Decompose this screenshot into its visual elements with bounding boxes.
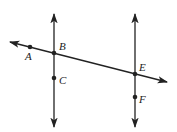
point-b-label: B bbox=[59, 40, 66, 52]
point-c-label: C bbox=[59, 74, 67, 86]
geometry-diagram: ABCEF bbox=[0, 0, 177, 132]
point-e-label: E bbox=[138, 61, 146, 73]
point-e-dot bbox=[133, 72, 138, 77]
point-a-label: A bbox=[24, 50, 32, 62]
point-a-dot bbox=[28, 45, 33, 50]
points-layer bbox=[28, 45, 138, 100]
point-b-dot bbox=[52, 51, 57, 56]
point-f-dot bbox=[133, 95, 138, 100]
point-f-label: F bbox=[138, 93, 146, 105]
point-c-dot bbox=[52, 76, 57, 81]
